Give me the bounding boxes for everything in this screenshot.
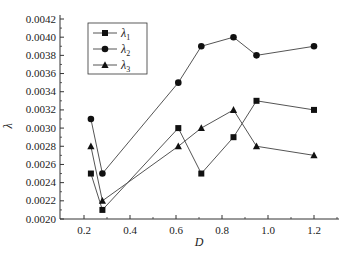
triangle-marker-icon: [253, 142, 260, 149]
circle-marker-icon: [230, 34, 237, 41]
series-line-square: [91, 101, 314, 210]
circle-marker-icon: [99, 170, 106, 177]
square-marker-icon: [175, 125, 181, 131]
square-marker-icon: [88, 171, 94, 177]
y-tick-label: 0.0024: [26, 176, 57, 188]
y-tick-label: 0.0040: [26, 31, 57, 43]
legend: λ1λ2λ3: [88, 23, 147, 74]
y-axis: 0.00200.00220.00240.00260.00280.00300.00…: [26, 13, 64, 225]
y-tick-label: 0.0026: [26, 158, 57, 170]
series-line-triangle: [91, 110, 314, 201]
x-tick-label: 1.0: [261, 224, 275, 236]
y-tick-label: 0.0042: [26, 13, 56, 25]
y-tick-label: 0.0038: [26, 49, 57, 61]
x-tick-label: 0.6: [169, 224, 183, 236]
triangle-marker-icon: [87, 142, 94, 149]
square-marker-icon: [254, 98, 260, 104]
x-axis-title: D: [194, 235, 204, 249]
x-tick-label: 0.2: [77, 224, 91, 236]
square-marker-icon: [311, 107, 317, 113]
y-axis-title: λ: [1, 123, 15, 129]
square-marker-icon: [102, 30, 108, 36]
y-tick-label: 0.0034: [26, 85, 57, 97]
circle-marker-icon: [88, 116, 95, 123]
triangle-marker-icon: [198, 124, 205, 131]
square-marker-icon: [231, 134, 237, 140]
y-tick-label: 0.0028: [26, 140, 57, 152]
square-marker-icon: [198, 171, 204, 177]
triangle-marker-icon: [175, 142, 182, 149]
circle-marker-icon: [253, 52, 260, 59]
circle-marker-icon: [102, 46, 109, 53]
x-tick-label: 0.4: [123, 224, 137, 236]
y-tick-label: 0.0022: [26, 194, 56, 206]
y-tick-label: 0.0036: [26, 67, 57, 79]
circle-marker-icon: [311, 43, 318, 50]
x-tick-label: 0.8: [215, 224, 229, 236]
line-chart: 0.00200.00220.00240.00260.00280.00300.00…: [0, 0, 345, 258]
x-tick-label: 1.2: [307, 224, 321, 236]
x-axis: 0.20.40.60.81.01.2: [60, 215, 339, 236]
y-tick-label: 0.0032: [26, 103, 56, 115]
circle-marker-icon: [175, 79, 182, 86]
triangle-marker-icon: [230, 106, 237, 113]
square-marker-icon: [99, 207, 105, 213]
y-tick-label: 0.0030: [26, 122, 57, 134]
circle-marker-icon: [198, 43, 205, 50]
y-tick-label: 0.0020: [26, 213, 57, 225]
